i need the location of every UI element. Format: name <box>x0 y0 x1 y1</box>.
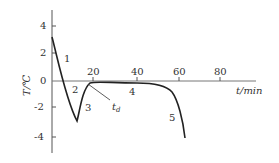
y-tick-label-2: 2 <box>40 47 46 58</box>
y-tick-label-neg2: -2 <box>34 101 44 112</box>
y-axis-label: T/℃ <box>21 75 32 96</box>
segment-label-4: 4 <box>129 86 135 97</box>
x-tick-label-40: 40 <box>131 66 144 77</box>
x-tick-label-20: 20 <box>87 66 100 77</box>
chart: 4 2 0 -2 -4 20 40 60 80 T/℃ t/min 1 2 3 … <box>0 0 279 163</box>
x-tick-label-60: 60 <box>173 66 186 77</box>
x-axis-label: t/min <box>236 85 263 96</box>
td-pointer-line <box>88 84 110 100</box>
segment-label-2: 2 <box>72 84 78 95</box>
y-tick-label-4: 4 <box>40 20 46 31</box>
x-ticks <box>93 77 220 81</box>
y-tick-label-0: 0 <box>40 75 46 86</box>
y-tick-label-neg4: -4 <box>34 131 44 142</box>
td-label: td <box>112 101 121 114</box>
x-tick-label-80: 80 <box>214 66 227 77</box>
td-subscript: d <box>116 106 121 114</box>
segment-label-5: 5 <box>169 112 175 123</box>
segment-label-1: 1 <box>64 53 70 64</box>
segment-label-3: 3 <box>85 102 91 113</box>
